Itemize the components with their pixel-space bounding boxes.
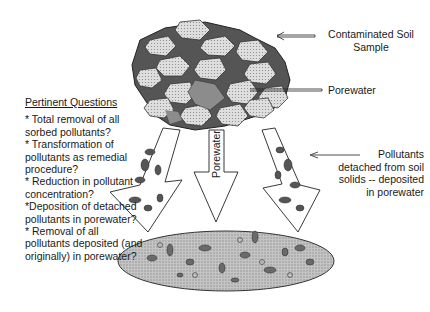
porewater-text: Porewater	[328, 84, 376, 96]
pollutants-detached-label: Pollutants detached from soil solids -- …	[320, 148, 424, 198]
questions-title: Pertinent Questions	[25, 96, 143, 108]
question-item: * Removal of all pollutants deposited (a…	[25, 225, 143, 262]
pollutants-line2: detached from soil	[338, 161, 424, 173]
pollutants-line1: Pollutants	[378, 148, 424, 160]
question-item: * Transformation of pollutants as remedi…	[25, 138, 143, 175]
porewater-center-label: Porewater	[210, 130, 222, 178]
right-arrow-pollutants	[262, 128, 320, 232]
leader-soil-sample	[277, 32, 315, 40]
question-item: * Reduction in pollutant concentration?	[25, 175, 143, 200]
soil-sample-label: Contaminated Soil Sample	[318, 28, 424, 53]
pollutants-line4: in porewater	[366, 186, 424, 198]
question-item: *Deposition of detached pollutants in po…	[25, 200, 143, 225]
pollutants-line3: solids -- deposited	[339, 173, 424, 185]
contaminated-soil-sample	[132, 20, 290, 130]
soil-sample-line2: Sample	[353, 41, 389, 53]
question-item: * Total removal of all sorbed pollutants…	[25, 113, 143, 138]
porewater-deposit-ellipse	[118, 231, 334, 291]
porewater-label: Porewater	[328, 84, 376, 97]
soil-sample-line1: Contaminated Soil	[328, 28, 414, 40]
pertinent-questions: Pertinent Questions * Total removal of a…	[25, 96, 143, 262]
